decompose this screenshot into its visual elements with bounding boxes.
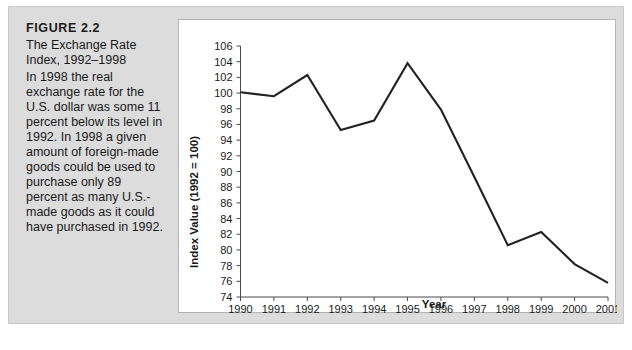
figure-title: The Exchange Rate Index, 1992–1998	[26, 38, 166, 68]
data-series-line	[241, 63, 609, 283]
figure-description: In 1998 the real exchange rate for the U…	[26, 70, 166, 235]
x-tick-label: 1990	[228, 303, 252, 314]
x-tick-label: 1995	[395, 303, 419, 314]
y-tick-label: 82	[220, 228, 232, 240]
y-axis-ticks: 74767880828486889092949698100102104106	[214, 40, 240, 303]
figure-panel: FIGURE 2.2 The Exchange Rate Index, 1992…	[8, 6, 624, 324]
x-tick-label: 1999	[529, 303, 553, 314]
x-tick-label: 2001	[596, 303, 617, 314]
chart-panel: Index Value (1992 = 100) Year 7476788082…	[178, 19, 616, 313]
x-tick-label: 1994	[362, 303, 386, 314]
x-tick-label: 1996	[429, 303, 453, 314]
y-tick-label: 98	[220, 103, 232, 115]
y-tick-label: 100	[214, 87, 232, 99]
y-tick-label: 102	[214, 71, 232, 83]
y-tick-label: 92	[220, 150, 232, 162]
x-tick-label: 1993	[328, 303, 352, 314]
y-tick-label: 104	[214, 56, 232, 68]
y-tick-label: 86	[220, 197, 232, 209]
figure-number: FIGURE 2.2	[26, 21, 166, 35]
x-tick-label: 1998	[496, 303, 520, 314]
y-tick-label: 78	[220, 260, 232, 272]
y-tick-label: 96	[220, 118, 232, 130]
figure-caption: FIGURE 2.2 The Exchange Rate Index, 1992…	[26, 21, 166, 235]
y-tick-label: 90	[220, 166, 232, 178]
line-chart: Index Value (1992 = 100) Year 7476788082…	[179, 20, 617, 314]
y-tick-label: 76	[220, 275, 232, 287]
x-tick-label: 2000	[562, 303, 586, 314]
y-tick-label: 80	[220, 244, 232, 256]
x-tick-label: 1997	[462, 303, 486, 314]
y-tick-label: 74	[220, 291, 232, 303]
y-axis-title: Index Value (1992 = 100)	[188, 136, 200, 268]
x-tick-label: 1991	[262, 303, 286, 314]
x-tick-label: 1992	[295, 303, 319, 314]
y-tick-label: 84	[220, 213, 232, 225]
y-tick-label: 106	[214, 40, 232, 52]
y-tick-label: 94	[220, 134, 232, 146]
y-tick-label: 88	[220, 181, 232, 193]
